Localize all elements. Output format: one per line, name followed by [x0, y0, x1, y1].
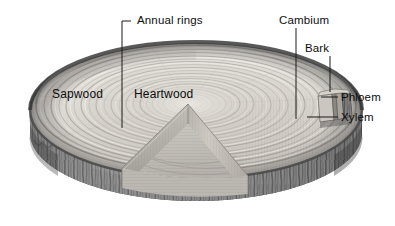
- label-bark: Bark: [305, 42, 329, 54]
- tree-cross-section-illustration: [0, 0, 395, 226]
- diagram-canvas: Annual rings Cambium Bark Phloem Xylem S…: [0, 0, 395, 226]
- label-xylem: Xylem: [341, 111, 374, 123]
- label-sapwood: Sapwood: [52, 88, 103, 100]
- label-phloem: Phloem: [341, 91, 381, 103]
- label-annual-rings: Annual rings: [137, 14, 203, 26]
- xylem-step: [318, 94, 334, 122]
- label-cambium: Cambium: [279, 14, 329, 26]
- label-heartwood: Heartwood: [134, 88, 193, 100]
